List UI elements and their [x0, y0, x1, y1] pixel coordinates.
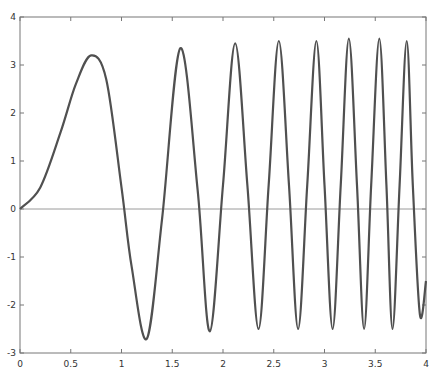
y-tick-label: 1: [10, 156, 16, 166]
x-tick-label: 1.5: [165, 359, 179, 369]
x-tick-label: 3: [322, 359, 328, 369]
x-tick-label: 0.5: [64, 359, 78, 369]
y-tick-label: 0: [10, 204, 16, 214]
line-chart: 00.511.522.533.54-3-2-101234: [0, 0, 437, 373]
x-tick-label: 1: [119, 359, 125, 369]
x-tick-label: 0: [17, 359, 23, 369]
x-tick-label: 2: [220, 359, 226, 369]
data-series-line: [20, 39, 426, 340]
y-tick-label: 3: [10, 60, 16, 70]
y-tick-label: -1: [7, 252, 16, 262]
x-tick-label: 2.5: [267, 359, 281, 369]
x-tick-label: 3.5: [368, 359, 382, 369]
y-tick-label: -3: [7, 348, 16, 358]
y-tick-label: 2: [10, 108, 16, 118]
y-tick-label: 4: [10, 12, 16, 22]
y-tick-label: -2: [7, 300, 16, 310]
x-tick-label: 4: [423, 359, 429, 369]
